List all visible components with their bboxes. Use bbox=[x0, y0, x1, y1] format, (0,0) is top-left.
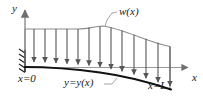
deflection-function-label: y=y(x) bbox=[64, 77, 93, 88]
load-arrows bbox=[34, 26, 170, 86]
y-label-leader bbox=[104, 78, 117, 84]
load-function-label: w(x) bbox=[119, 6, 139, 17]
w-label-leader bbox=[105, 12, 117, 26]
x-axis-label: x bbox=[192, 72, 197, 83]
fixed-support bbox=[19, 49, 25, 73]
y-axis-label: y bbox=[12, 3, 17, 14]
support-hatching bbox=[19, 49, 25, 73]
origin-label: x=0 bbox=[18, 73, 36, 84]
beam-diagram: y x w(x) x=0 y=y(x) x=L bbox=[0, 0, 203, 100]
beam-diagram-canvas bbox=[0, 0, 203, 100]
free-end-label: x=L bbox=[148, 80, 166, 91]
